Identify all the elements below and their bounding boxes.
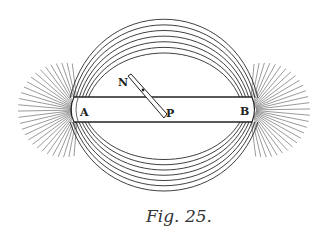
- pole-label-a: A: [79, 106, 89, 119]
- needle-label-n: N: [118, 76, 128, 89]
- figure-caption: Fig. 25.: [145, 206, 212, 226]
- bottom-field-arcs: [70, 122, 258, 191]
- magnet-field-diagram: A B N P Fig. 25.: [0, 0, 335, 250]
- right-pole-radial-lines: [251, 63, 310, 157]
- pole-label-b: B: [240, 105, 249, 118]
- needle-label-p: P: [166, 107, 174, 120]
- left-pole-radial-lines: [18, 63, 77, 157]
- top-field-arcs: [70, 19, 258, 98]
